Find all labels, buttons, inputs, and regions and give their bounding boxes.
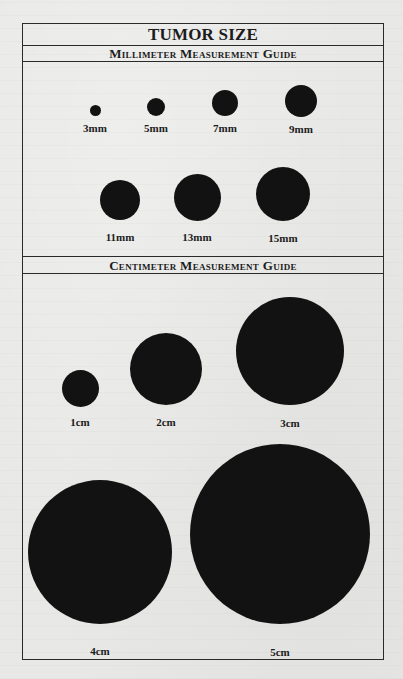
size-label: 2cm: [136, 416, 196, 428]
size-circle-13mm: [174, 174, 221, 221]
size-label: 13mm: [167, 231, 227, 243]
size-label: 5cm: [250, 646, 310, 658]
size-circle-2cm: [130, 333, 202, 405]
size-circle-1cm: [62, 370, 99, 407]
size-circle-9mm: [285, 85, 317, 117]
size-circle-11mm: [100, 180, 140, 220]
size-circle-7mm: [212, 90, 238, 116]
size-label: 5mm: [126, 122, 186, 134]
size-circle-15mm: [256, 167, 310, 221]
size-label: 3cm: [260, 417, 320, 429]
size-label: 15mm: [253, 232, 313, 244]
centimeter-section-heading: Centimeter Measurement Guide: [23, 256, 383, 274]
page-title: TUMOR SIZE: [23, 24, 383, 46]
size-label: 4cm: [70, 645, 130, 657]
size-label: 7mm: [195, 122, 255, 134]
size-circle-3mm: [90, 105, 101, 116]
size-circle-5cm: [190, 444, 370, 624]
size-circle-4cm: [28, 480, 172, 624]
size-circle-5mm: [147, 98, 165, 116]
size-circle-3cm: [236, 297, 344, 405]
millimeter-section-heading: Millimeter Measurement Guide: [23, 46, 383, 62]
size-label: 3mm: [65, 122, 125, 134]
size-label: 9mm: [271, 123, 331, 135]
size-label: 11mm: [90, 231, 150, 243]
size-label: 1cm: [50, 416, 110, 428]
